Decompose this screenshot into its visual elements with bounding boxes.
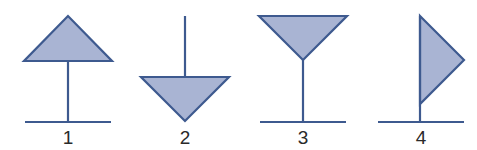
figure-label-3: 3	[288, 127, 318, 149]
figure-4-flag	[378, 16, 464, 122]
triangle-up-icon	[24, 16, 112, 61]
figure-label-2: 2	[170, 127, 200, 149]
figure-label-4: 4	[406, 127, 436, 149]
figure-2-triangle-down-hanging	[141, 16, 229, 121]
triangle-down-icon	[259, 16, 347, 60]
triangle-right-icon	[420, 16, 464, 104]
figure-3-goblet	[259, 16, 347, 122]
triangle-down-icon	[141, 77, 229, 121]
figure-1-triangle-up-on-stem	[24, 16, 112, 122]
figure-label-1: 1	[53, 127, 83, 149]
